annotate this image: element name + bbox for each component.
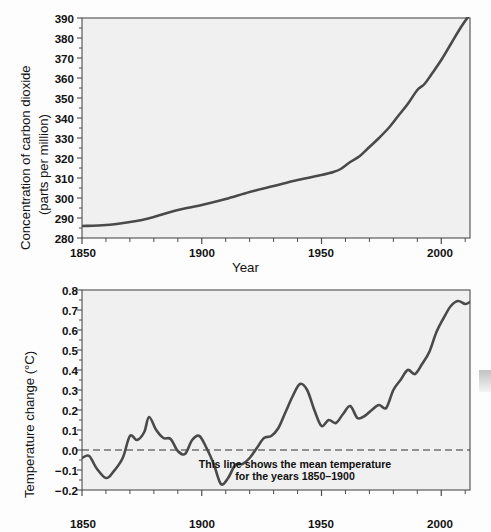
co2-ytick-350: 350 [40,92,74,105]
co2-x-axis-label: Year [232,260,259,275]
plot-area [82,18,470,238]
temp-xtick-1850: 1850 [63,517,103,530]
temp-xtick-1900: 1900 [182,517,222,530]
temp-ytick-0.5: 0.5 [40,344,78,357]
temp-xtick-2000: 2000 [420,517,460,530]
temp-ytick-0.1: 0.1 [40,424,78,437]
temp-ytick-0.8: 0.8 [40,284,78,297]
co2-ytick-310: 310 [40,172,74,185]
co2-ytick-370: 370 [40,52,74,65]
temp-ytick-0.6: 0.6 [40,324,78,337]
co2-xtick-1900: 1900 [182,246,222,259]
mean-temperature-annotation-line1: This line shows the mean temperature [180,458,410,471]
mean-temperature-annotation-line2: for the years 1850–1900 [180,470,410,483]
chart-temperature-change: Temperature change (°C) 0.8 0.7 0.6 0.5 … [0,280,491,532]
temp-ytick-0.4: 0.4 [40,364,78,377]
co2-ytick-360: 360 [40,72,74,85]
co2-ytick-340: 340 [40,112,74,125]
co2-y-axis-label-line1: Concentration of carbon dioxide [18,65,33,250]
co2-ytick-290: 290 [40,212,74,225]
co2-ytick-280: 280 [40,232,74,245]
temp-ytick-0.0: 0.0 [40,444,78,457]
page-edge-shadow [479,370,491,392]
co2-ytick-380: 380 [40,32,74,45]
temp-ytick--0.1: −0.1 [36,464,78,477]
figure-page: Concentration of carbon dioxide (parts p… [0,0,491,532]
co2-ytick-320: 320 [40,152,74,165]
temp-ytick-0.2: 0.2 [40,404,78,417]
temp-ytick--0.2: −0.2 [36,484,78,497]
co2-xtick-1850: 1850 [63,246,103,259]
co2-ytick-330: 330 [40,132,74,145]
co2-ytick-300: 300 [40,192,74,205]
temp-y-axis-label: Temperature change (°C) [22,351,37,498]
co2-xtick-1950: 1950 [301,246,341,259]
co2-xtick-2000: 2000 [420,246,460,259]
co2-ytick-390: 390 [40,12,74,25]
temp-ytick-0.3: 0.3 [40,384,78,397]
chart-co2-concentration: Concentration of carbon dioxide (parts p… [0,0,491,280]
temp-ytick-0.7: 0.7 [40,304,78,317]
temp-xtick-1950: 1950 [301,517,341,530]
